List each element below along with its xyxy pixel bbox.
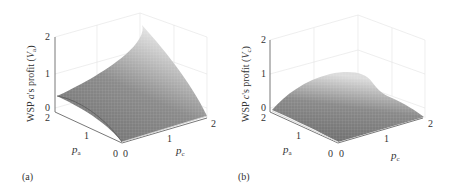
panel-a-pa-tick-2: 2 [45,112,50,123]
panel-b-pc-tick-2: 2 [428,118,433,129]
panel-a-pc-label: pc [175,144,185,158]
panel-a-pc-tick-1: 1 [167,133,172,144]
panel-b-pa-label: pa [282,143,293,157]
panel-a-label: (a) [22,171,33,183]
panel-a-pa-tick-1: 1 [84,130,89,141]
panel-a-pc-tick-2: 2 [211,118,216,129]
panel-a-pa-label: pa [71,143,82,157]
panel-a-z-tick-2: 2 [45,31,50,42]
panel-a-z-label: WSP a's profit (Va) [25,45,38,122]
panel-b-pc-label: pc [390,149,400,163]
panel-b-z-tick-1: 1 [261,68,266,79]
panel-b-pa-tick-2: 2 [261,112,266,123]
panel-b-z-label: WSP c's profit (Vc) [240,46,253,122]
panel-b-pa-tick-0: 0 [328,148,333,159]
panel-b-label: (b) [238,171,250,183]
panel-a: 2 1 0 2 1 0 0 1 2 WSP a's profit (Va) pa… [22,13,216,183]
panel-b-pa-tick-1: 1 [296,130,301,141]
panel-b-pc-tick-0: 0 [339,148,344,159]
panel-b-z-tick-2: 2 [261,34,266,45]
panel-b-pc-tick-1: 1 [384,133,389,144]
panel-a-pc-tick-0: 0 [123,148,128,159]
figure: 2 1 0 2 1 0 0 1 2 WSP a's profit (Va) pa… [0,0,458,189]
panel-b: 2 1 0 2 1 0 0 1 2 WSP c's profit (Vc) pa… [238,15,433,183]
panel-a-z-tick-1: 1 [45,68,50,79]
panel-a-pa-tick-0: 0 [113,148,118,159]
